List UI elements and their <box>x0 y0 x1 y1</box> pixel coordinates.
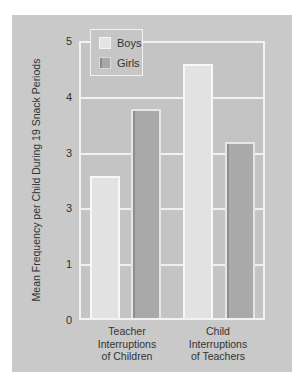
bar-boys-teacher-interruptions <box>90 176 120 318</box>
y-tick-5: 5 <box>52 35 72 47</box>
category-line: Teacher <box>82 325 172 338</box>
y-tick-0: 0 <box>52 314 72 326</box>
legend-swatch-boys <box>99 37 111 49</box>
y-tick-4: 4 <box>52 91 72 103</box>
bar-boys-child-interruptions <box>183 64 213 318</box>
legend-swatch-girls <box>99 57 111 69</box>
legend: Boys Girls <box>90 29 143 76</box>
y-tick-1: 1 <box>52 258 72 270</box>
legend-label-girls: Girls <box>117 57 140 69</box>
gridline-4 <box>81 97 263 99</box>
category-line: Child <box>173 325 263 338</box>
y-tick-2: 3 <box>52 202 72 214</box>
bar-girls-child-interruptions <box>225 142 255 318</box>
bar-girls-teacher-interruptions <box>131 109 161 318</box>
legend-item-boys: Boys <box>99 36 141 50</box>
y-tick-3: 3 <box>52 147 72 159</box>
category-line: of Teachers <box>173 350 263 363</box>
category-line: Interruptions <box>173 338 263 351</box>
legend-item-girls: Girls <box>99 56 140 70</box>
legend-label-boys: Boys <box>117 37 141 49</box>
category-line: of Children <box>82 350 172 363</box>
y-axis-label: Mean Frequency per Child During 19 Snack… <box>30 40 44 320</box>
category-label-child-interruptions: Child Interruptions of Teachers <box>173 325 263 363</box>
category-label-teacher-interruptions: Teacher Interruptions of Children <box>82 325 172 363</box>
category-line: Interruptions <box>82 338 172 351</box>
plot-area <box>79 41 265 320</box>
